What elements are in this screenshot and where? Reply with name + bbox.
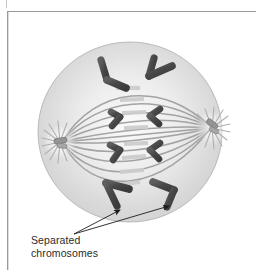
midzone-overlap bbox=[120, 99, 144, 100]
midzone-overlap bbox=[124, 127, 148, 128]
midzone-overlap bbox=[120, 170, 144, 172]
figure-root: Separated chromosomes bbox=[0, 0, 256, 270]
midzone-overlap bbox=[122, 156, 146, 158]
caption-separated-chromosomes: Separated chromosomes bbox=[31, 234, 171, 259]
midzone-overlap bbox=[122, 112, 146, 113]
midzone-overlap bbox=[124, 143, 148, 144]
mitosis-anaphase-diagram bbox=[0, 0, 256, 270]
